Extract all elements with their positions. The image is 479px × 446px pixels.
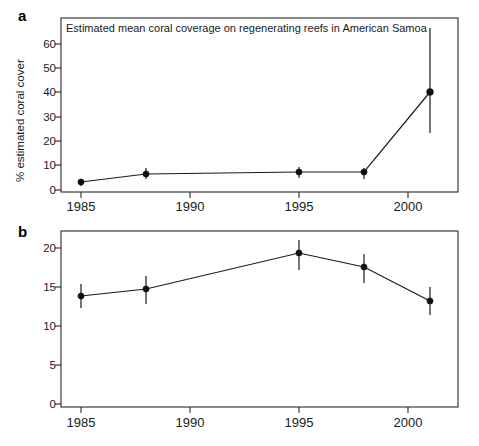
panel-a-data-markers [78, 89, 434, 185]
panel-a-y-tickmarks [55, 44, 61, 190]
panel-a-x-tickmarks [81, 192, 408, 198]
panel-b-ytick-15: 15 [30, 281, 56, 293]
panel-a-point-1988 [143, 171, 149, 177]
panel-b-ytick-10: 10 [30, 320, 56, 332]
panel-a-series-group [78, 28, 434, 186]
panel-a-point-2001 [427, 89, 434, 96]
panel-a-point-1995 [296, 169, 302, 175]
panel-b-plot [0, 217, 479, 446]
panel-b-series-line [81, 253, 430, 301]
panel-a-plot [0, 0, 479, 223]
panel-b-point-2001 [427, 298, 433, 304]
panel-a-series-line [81, 92, 430, 182]
panel-b-point-1988 [143, 286, 149, 292]
panel-b-ytick-5: 5 [30, 359, 56, 371]
panel-b-point-1998 [361, 264, 367, 270]
panel-b-xtick-1990: 1990 [165, 415, 215, 430]
panel-b: b [0, 217, 479, 446]
panel-a-error-bars [81, 28, 430, 186]
panel-a-point-1985 [78, 179, 84, 185]
panel-b-xtick-1985: 1985 [56, 415, 106, 430]
panel-b-point-1995 [296, 250, 302, 256]
panel-b-point-1985 [78, 293, 84, 299]
panel-b-error-bars [81, 240, 430, 315]
panel-b-plot-frame [61, 231, 458, 407]
panel-a-point-1998 [361, 169, 367, 175]
panel-b-series-group [78, 240, 433, 315]
panel-b-ytick-0: 0 [30, 398, 56, 410]
figure-container: a % estimated coral cover Estimated mean… [0, 0, 479, 446]
panel-b-ytick-20: 20 [30, 242, 56, 254]
panel-b-data-markers [78, 250, 433, 304]
panel-b-xtick-2000: 2000 [383, 415, 433, 430]
panel-a-plot-frame [61, 18, 458, 192]
panel-a: a % estimated coral cover Estimated mean… [0, 0, 479, 223]
panel-b-x-tickmarks [81, 407, 408, 413]
panel-b-xtick-1995: 1995 [274, 415, 324, 430]
